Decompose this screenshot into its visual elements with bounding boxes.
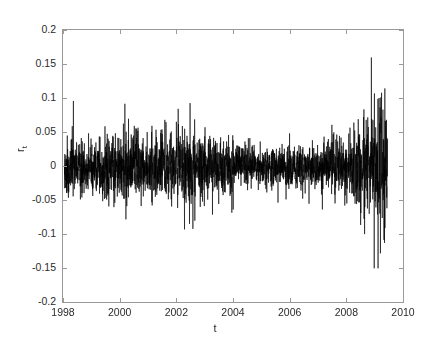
- y-axis-label: rt: [14, 146, 29, 152]
- tick-mark: [399, 98, 403, 99]
- tick-mark: [63, 132, 67, 133]
- tick-mark: [399, 64, 403, 65]
- tick-mark: [63, 166, 67, 167]
- x-tick-label: 1998: [41, 307, 85, 318]
- tick-mark: [399, 132, 403, 133]
- x-tick-label: 2008: [324, 307, 368, 318]
- tick-mark: [63, 30, 64, 34]
- tick-mark: [63, 64, 67, 65]
- tick-mark: [120, 30, 121, 34]
- tick-mark: [63, 298, 64, 302]
- x-axis-label: t: [0, 322, 430, 334]
- tick-mark: [399, 200, 403, 201]
- tick-mark: [63, 234, 67, 235]
- tick-mark: [399, 268, 403, 269]
- tick-mark: [63, 98, 67, 99]
- y-axis-label-base: r: [14, 148, 26, 152]
- tick-mark: [63, 268, 67, 269]
- x-tick-label: 2006: [268, 307, 312, 318]
- tick-mark: [233, 298, 234, 302]
- tick-mark: [346, 30, 347, 34]
- tick-mark: [176, 298, 177, 302]
- figure-container: 0.20.150.10.050-0.05-0.1-0.15-0.2 199820…: [0, 0, 430, 348]
- tick-mark: [403, 298, 404, 302]
- x-tick-label-group: 1998200020022004200620082010: [0, 0, 430, 348]
- tick-mark: [346, 298, 347, 302]
- x-tick-label: 2004: [211, 307, 255, 318]
- y-axis-label-subscript: t: [20, 146, 29, 148]
- tick-mark: [120, 298, 121, 302]
- tick-mark: [403, 30, 404, 34]
- x-tick-label: 2002: [154, 307, 198, 318]
- tick-mark: [399, 302, 403, 303]
- tick-mark: [399, 166, 403, 167]
- x-tick-label: 2000: [98, 307, 142, 318]
- tick-mark: [290, 298, 291, 302]
- tick-mark: [290, 30, 291, 34]
- tick-mark: [63, 200, 67, 201]
- tick-mark: [399, 234, 403, 235]
- tick-mark: [176, 30, 177, 34]
- tick-mark: [233, 30, 234, 34]
- tick-mark: [63, 302, 67, 303]
- x-tick-label: 2010: [381, 307, 425, 318]
